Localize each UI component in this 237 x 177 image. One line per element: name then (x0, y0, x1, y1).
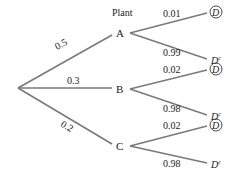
prob-a: 0.5 (53, 36, 69, 52)
prob-b-dc: 0.98 (163, 103, 181, 114)
prob-b-d: 0.02 (163, 64, 181, 75)
node-b: B (116, 83, 123, 95)
prob-c-dc: 0.98 (163, 158, 181, 169)
leaf-c-dc: Dc (210, 159, 221, 170)
branch-root-c (18, 88, 112, 144)
prob-c-d: 0.02 (163, 120, 181, 131)
node-a: A (116, 27, 124, 39)
prob-a-d: 0.01 (163, 8, 181, 19)
leaf-c-d: D (211, 120, 220, 131)
prob-b: 0.3 (67, 75, 80, 86)
leaf-b-d: D (211, 64, 220, 75)
leaf-a-d: D (211, 7, 220, 18)
prob-a-dc: 0.99 (163, 47, 181, 58)
plant-heading: Plant (112, 7, 133, 18)
node-c: C (116, 140, 123, 152)
probability-tree: Plant 0.5 0.3 0.2 A 0.01 0.99 D Dc B 0.0… (0, 0, 237, 177)
